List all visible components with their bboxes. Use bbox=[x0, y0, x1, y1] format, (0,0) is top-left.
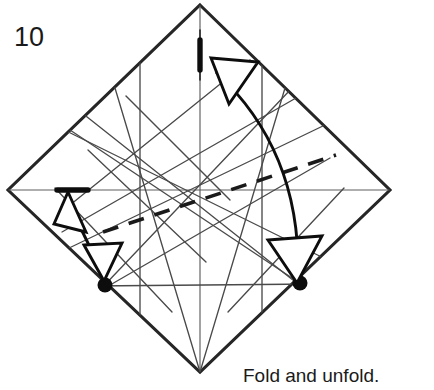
diagram-stage: 10 Fold and unfold. bbox=[0, 0, 434, 390]
origami-step-diagram: 10 Fold and unfold. bbox=[0, 0, 434, 390]
step-number: 10 bbox=[14, 22, 44, 52]
figure-caption: Fold and unfold. bbox=[243, 365, 379, 386]
